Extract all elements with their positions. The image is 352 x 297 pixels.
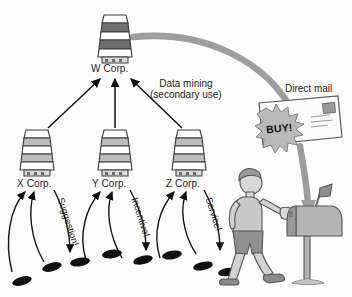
label-x-corp: X Corp.	[17, 178, 52, 189]
label-buy: BUY!	[266, 121, 293, 135]
annotation-data-mining: Data mining (secondary use)	[150, 78, 222, 100]
data-mining-line-2: (secondary use)	[150, 89, 222, 100]
diagram-canvas: W Corp. X Corp. Y Corp. Z Corp. Data min…	[0, 0, 352, 297]
label-z-corp: Z Corp.	[166, 178, 200, 189]
label-w-corp: W Corp.	[91, 63, 128, 74]
label-y-corp: Y Corp.	[92, 178, 126, 189]
label-direct-mail: Direct mail	[285, 83, 332, 94]
data-mining-line-1: Data mining	[150, 78, 222, 89]
direct-mail-envelope	[0, 0, 352, 297]
